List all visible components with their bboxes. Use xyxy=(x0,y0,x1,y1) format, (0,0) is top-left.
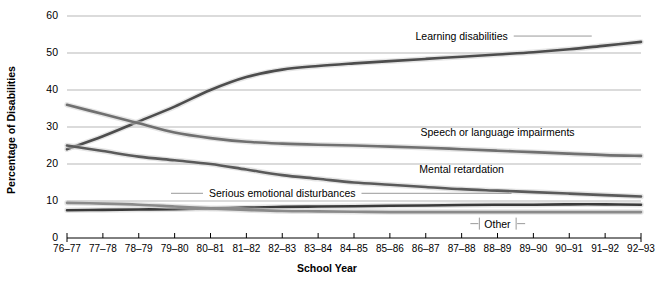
x-tick-label: 91–92 xyxy=(591,243,619,254)
y-tick-label: 10 xyxy=(46,194,58,206)
chart-container: 0102030405060 76–7777–7878–7979–8080–818… xyxy=(0,0,655,281)
x-tick-label: 86–87 xyxy=(412,243,440,254)
x-tick-label: 89–90 xyxy=(519,243,547,254)
x-tick-label: 79–80 xyxy=(161,243,189,254)
line-chart-svg: 0102030405060 76–7777–7878–7979–8080–818… xyxy=(0,0,655,281)
y-axis-title: Percentage of Disabilities xyxy=(5,66,17,194)
x-axis-title: School Year xyxy=(297,262,357,274)
x-tick-label: 83–84 xyxy=(304,243,332,254)
y-axis-tick-labels: 0102030405060 xyxy=(46,9,58,243)
series-label: Other xyxy=(484,218,511,230)
x-tick-label: 82–83 xyxy=(268,243,296,254)
x-tick-label: 77–78 xyxy=(89,243,117,254)
x-axis-tick-labels: 76–7777–7878–7979–8080–8181–8282–8383–84… xyxy=(53,243,655,254)
x-tick-label: 84–85 xyxy=(340,243,368,254)
series-label: Serious emotional disturbances xyxy=(209,187,356,199)
y-tick-label: 30 xyxy=(46,120,58,132)
series-label: Learning disabilities xyxy=(416,30,508,42)
x-tick-label: 88–89 xyxy=(484,243,512,254)
x-tick-label: 80–81 xyxy=(197,243,225,254)
x-tick-label: 78–79 xyxy=(125,243,153,254)
x-axis xyxy=(67,233,641,242)
y-tick-label: 20 xyxy=(46,157,58,169)
y-tick-label: 40 xyxy=(46,83,58,95)
y-tick-label: 50 xyxy=(46,46,58,58)
series-label: Mental retardation xyxy=(419,163,504,175)
x-tick-label: 92–93 xyxy=(627,243,655,254)
x-tick-label: 76–77 xyxy=(53,243,81,254)
gridlines xyxy=(67,16,641,201)
x-tick-label: 90–91 xyxy=(555,243,583,254)
series-label: Speech or language impairments xyxy=(420,126,574,138)
x-tick-label: 85–86 xyxy=(376,243,404,254)
y-tick-label: 60 xyxy=(46,9,58,21)
x-tick-label: 81–82 xyxy=(232,243,260,254)
x-tick-label: 87–88 xyxy=(448,243,476,254)
y-tick-label: 0 xyxy=(52,231,58,243)
